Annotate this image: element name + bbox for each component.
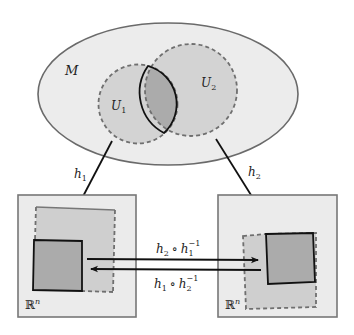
transition-arrow-forward (87, 259, 258, 260)
transition-label-forward: h2∘h1−1 (156, 239, 200, 258)
transition-arrow-backward (91, 269, 261, 270)
transition-label-backward: h1∘h2−1 (154, 274, 198, 293)
manifold-label: M (64, 63, 79, 78)
image-overlap-right (266, 233, 315, 284)
image-overlap-left (33, 240, 82, 291)
h1-label: h1 (74, 167, 87, 183)
h2-label: h2 (248, 165, 261, 181)
transition-map-diagram: M U1 U2 h1 h2 ℝn ℝn h2∘h1−1 h1∘h2−1 (0, 0, 354, 335)
